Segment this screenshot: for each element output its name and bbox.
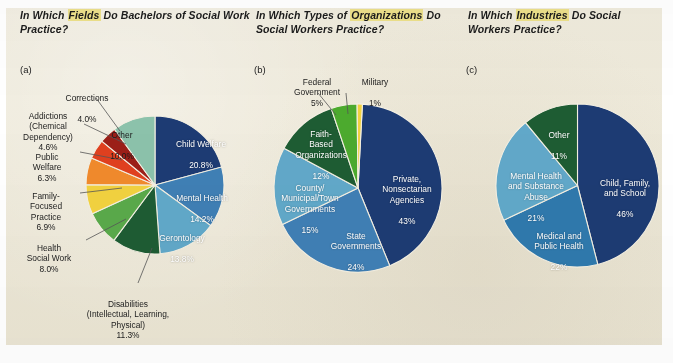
slice-label-faith-based: Faith- Based Organizations 12% <box>286 118 356 181</box>
panel-a-title-highlight: Fields <box>68 9 101 21</box>
slice-label-other-c-text: Other <box>549 130 570 140</box>
slice-label-federal-government-text: Federal Government <box>294 77 340 98</box>
slice-label-mental-health-substance-value: 21% <box>528 213 545 223</box>
panel-c-title: In Which Industries Do Social Workers Pr… <box>468 8 648 36</box>
panel-c-title-pre: In Which <box>468 9 516 21</box>
slice-label-medical-public-health-value: 22% <box>551 262 568 272</box>
slice-label-medical-public-health: Medical and Public Health 22% <box>520 220 598 273</box>
panel-a-title-pre: In Which <box>20 9 68 21</box>
slice-label-military-text: Military <box>362 77 389 87</box>
slice-label-county-governments-text: County/ Municipal/Town Governments <box>281 183 338 214</box>
slice-label-health-social-work-value: 8.0% <box>39 264 58 274</box>
slice-label-gerontology: Gerontology 13.8% <box>143 222 221 264</box>
panel-b-title-highlight: Organizations <box>350 9 423 21</box>
slice-label-addictions-text: Addictions (Chemical Dependency) <box>23 111 73 142</box>
slice-label-mental-health-text: Mental Health <box>176 193 228 203</box>
slice-label-military-value: 1% <box>369 98 381 108</box>
slice-label-other-a-text: Other <box>112 130 133 140</box>
panel-b-title: In Which Types of Organizations Do Socia… <box>256 8 456 36</box>
slice-label-child-welfare-text: Child Welfare <box>176 139 226 149</box>
slice-label-family-focused-value: 6.9% <box>36 222 55 232</box>
slice-label-county-governments: County/ Municipal/Town Governments 15% <box>268 172 352 235</box>
slice-label-other-a: Other 10.0% <box>97 119 147 161</box>
slice-label-child-family-school-value: 46% <box>617 209 634 219</box>
slice-label-health-social-work-text: Health Social Work <box>27 243 72 264</box>
slice-label-federal-government-value: 5% <box>311 98 323 108</box>
slice-label-child-welfare-value: 20.8% <box>189 160 213 170</box>
slice-label-private-nonsectarian-text: Private, Nonsectarian Agencies <box>382 174 431 205</box>
slice-label-private-nonsectarian: Private, Nonsectarian Agencies 43% <box>370 163 444 226</box>
slice-label-family-focused-text: Family- Focused Practice <box>30 191 62 222</box>
panel-a-title: In Which Fields Do Bachelors of Social W… <box>20 8 250 36</box>
panel-b-letter: (b) <box>254 64 266 75</box>
slice-label-gerontology-value: 13.8% <box>170 254 194 264</box>
panel-c-title-highlight: Industries <box>516 9 569 21</box>
panel-c-letter: (c) <box>466 64 477 75</box>
slice-label-disabilities-text: Disabilities (Intellectual, Learning, Ph… <box>87 299 169 330</box>
slice-label-faith-based-value: 12% <box>313 171 330 181</box>
slice-label-mental-health-substance: Mental Health and Substance Abuse 21% <box>496 160 576 223</box>
slice-label-health-social-work: Health Social Work 8.0% <box>14 232 84 274</box>
slice-label-other-c: Other 11% <box>532 119 586 161</box>
slice-label-gerontology-text: Gerontology <box>159 233 205 243</box>
slice-label-child-family-school: Child, Family, and School 46% <box>588 167 662 220</box>
slice-label-public-welfare-text: Public Welfare <box>33 152 62 173</box>
slice-label-other-c-value: 11% <box>551 151 567 161</box>
slice-label-child-welfare: Child Welfare 20.8% <box>160 128 242 170</box>
slice-label-military: Military 1% <box>352 66 398 108</box>
slice-label-other-a-value: 10.0% <box>110 151 134 161</box>
slice-label-faith-based-text: Faith- Based Organizations <box>295 129 347 160</box>
slice-label-federal-government: Federal Government 5% <box>283 66 351 108</box>
slice-label-mental-health: Mental Health 14.2% <box>162 182 242 224</box>
slice-label-child-family-school-text: Child, Family, and School <box>600 178 650 199</box>
figure-page: In Which Fields Do Bachelors of Social W… <box>0 0 673 363</box>
slice-label-disabilities: Disabilities (Intellectual, Learning, Ph… <box>68 288 188 341</box>
slice-label-private-nonsectarian-value: 43% <box>399 216 416 226</box>
slice-label-medical-public-health-text: Medical and Public Health <box>534 231 583 252</box>
slice-label-state-governments-value: 24% <box>348 262 365 272</box>
slice-label-county-governments-value: 15% <box>302 225 319 235</box>
panel-b-title-pre: In Which Types of <box>256 9 350 21</box>
slice-label-mental-health-substance-text: Mental Health and Substance Abuse <box>508 171 564 202</box>
slice-label-public-welfare: Public Welfare 6.3% <box>14 141 80 183</box>
panel-a-letter: (a) <box>20 64 32 75</box>
slice-label-disabilities-value: 11.3% <box>116 330 139 340</box>
slice-label-family-focused: Family- Focused Practice 6.9% <box>12 180 80 233</box>
